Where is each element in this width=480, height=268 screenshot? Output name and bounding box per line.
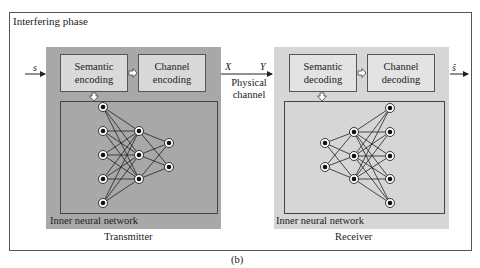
neuron-nodes	[99, 103, 395, 208]
diagram-graphics	[0, 0, 480, 268]
hollow-arrow-icon	[90, 69, 367, 102]
